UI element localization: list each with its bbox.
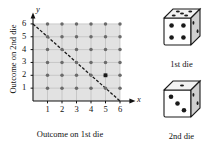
x-tick-label-4: 4 [86,104,96,114]
y-tick-label-1: 1 [19,82,29,92]
x-tick-label-3: 3 [72,104,82,114]
y-tick-label-3: 3 [19,56,29,66]
y-tick-label-5: 5 [19,31,29,41]
first-die-figure: 1st die [150,4,213,69]
die-cube-icon [157,76,207,126]
y-tick-label-2: 2 [19,69,29,79]
y-tick-label-6: 6 [19,18,29,28]
figure-root: y x 123456 123456 Outcome on 2nd die Out… [0,0,213,150]
y-axis-symbol: y [36,4,40,14]
second-die-figure: 2nd die [150,76,213,141]
dice-sample-space-chart: y x 123456 123456 Outcome on 2nd die Out… [0,0,150,150]
die-cube-icon [157,4,207,54]
x-axis-arrow [129,99,135,104]
y-tick-label-4: 4 [19,44,29,54]
highlighted-point [104,73,108,77]
x-tick-label-6: 6 [115,104,125,114]
x-tick-label-1: 1 [43,104,53,114]
x-axis-symbol: x [137,94,141,104]
dice-illustrations: 1st die 2nd die [150,0,213,150]
y-axis-title: Outcome on 2nd die [8,23,18,95]
second-die-caption: 2nd die [150,131,213,141]
y-axis-arrow [31,13,36,19]
x-tick-label-5: 5 [101,104,111,114]
x-axis-title: Outcome on 1st die [14,129,126,139]
x-tick-label-2: 2 [57,104,67,114]
first-die-caption: 1st die [150,59,213,69]
